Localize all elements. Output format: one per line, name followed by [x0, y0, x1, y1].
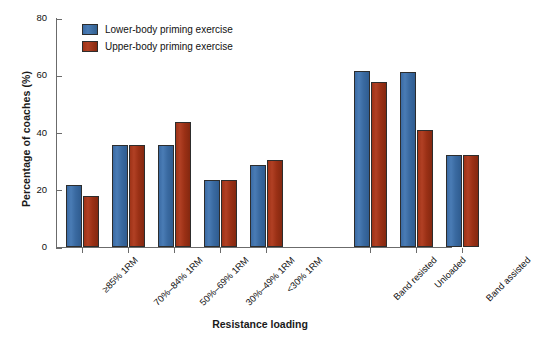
bar-upper-body — [463, 155, 479, 246]
legend-item-upper-body: Upper-body priming exercise — [82, 40, 233, 53]
x-tick-mark — [174, 248, 175, 253]
bar-upper-body — [83, 196, 99, 247]
legend-swatch-blue-icon — [82, 24, 98, 35]
x-label-unloaded: Unloaded — [433, 255, 468, 290]
bar-upper-body — [129, 145, 145, 246]
y-tick-label: 20 — [36, 184, 47, 195]
y-axis-title: Percentage of coaches (%) — [20, 39, 32, 239]
x-tick-mark — [220, 248, 221, 253]
x-axis-line — [56, 247, 452, 248]
bar-lower-body — [66, 185, 82, 246]
x-label-band-resisted: Band resisted — [392, 255, 439, 302]
legend-swatch-red-icon — [82, 41, 98, 52]
bar-upper-body — [371, 82, 387, 246]
bar-lower-body — [158, 145, 174, 246]
bar-lower-body — [400, 72, 416, 246]
bar-upper-body — [221, 180, 237, 247]
x-tick-mark — [462, 248, 463, 253]
bar-lower-body — [446, 155, 462, 246]
bar-lower-body — [354, 71, 370, 247]
x-tick-mark — [266, 248, 267, 253]
x-tick-mark — [128, 248, 129, 253]
bar-upper-body — [417, 130, 433, 247]
bar-lower-body — [204, 180, 220, 247]
bar-lower-body — [250, 165, 266, 246]
chart-legend: Lower-body priming exercise Upper-body p… — [82, 23, 233, 57]
y-tick-label: 80 — [36, 12, 47, 23]
x-tick-mark — [416, 248, 417, 253]
x-tick-mark — [82, 248, 83, 253]
y-tick-label: 0 — [42, 241, 47, 252]
y-tick-label: 60 — [36, 69, 47, 80]
x-axis-title: Resistance loading — [0, 318, 460, 330]
bar-upper-body — [175, 122, 191, 246]
legend-item-lower-body: Lower-body priming exercise — [82, 23, 233, 36]
y-tick-label: 40 — [36, 127, 47, 138]
bar-upper-body — [267, 160, 283, 247]
x-axis-title-text: Resistance loading — [212, 318, 308, 330]
bar-lower-body — [112, 145, 128, 246]
x-label-85-1rm: ≥85% 1RM — [101, 255, 141, 295]
y-tick-mark — [56, 247, 62, 248]
legend-label-upper-body: Upper-body priming exercise — [105, 41, 233, 52]
x-label-band-assisted: Band assisted — [484, 255, 532, 303]
x-tick-mark — [370, 248, 371, 253]
legend-label-lower-body: Lower-body priming exercise — [105, 24, 233, 35]
